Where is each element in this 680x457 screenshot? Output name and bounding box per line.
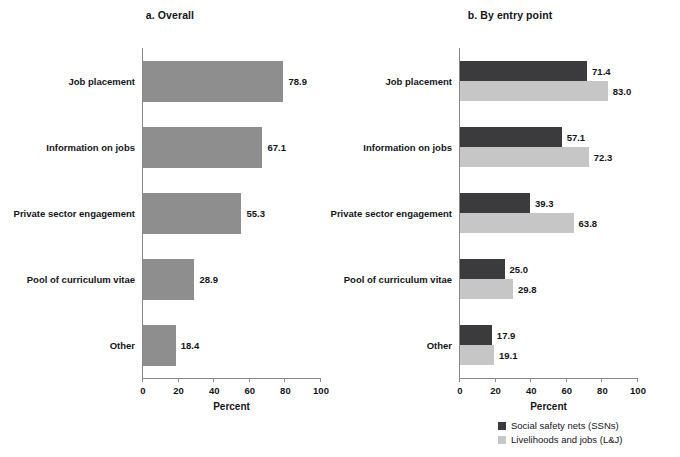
x-axis-tick-label: 80 <box>597 385 608 396</box>
x-axis-tick-label: 20 <box>173 385 184 396</box>
x-axis-tick <box>637 378 638 382</box>
legend-swatch-lj <box>498 436 506 444</box>
bar-value-label: 29.8 <box>518 284 537 295</box>
x-axis-tick <box>284 378 285 382</box>
category-group: Pool of curriculum vitae28.9 <box>143 246 321 312</box>
bar-value-label: 39.3 <box>535 198 554 209</box>
bar-value-label: 25.0 <box>510 264 529 275</box>
x-axis-tick-label: 0 <box>457 385 462 396</box>
bar[interactable]: 55.3 <box>143 193 241 234</box>
x-axis-tick-label: 20 <box>490 385 501 396</box>
legend-label-lj: Livelihoods and jobs (L&J) <box>511 434 622 445</box>
bar[interactable]: 18.4 <box>143 325 176 366</box>
category-group: Information on jobs67.1 <box>143 114 321 180</box>
legend-item: Livelihoods and jobs (L&J) <box>498 434 622 445</box>
bar[interactable]: 28.9 <box>143 259 194 300</box>
bar-value-label: 63.8 <box>579 218 598 229</box>
bar-value-label: 18.4 <box>181 340 200 351</box>
category-group: Other18.4 <box>143 312 321 378</box>
panel-a-title: a. Overall <box>0 9 340 21</box>
bar-value-label: 17.9 <box>497 330 516 341</box>
bar[interactable]: 72.3 <box>460 147 589 167</box>
x-axis-tick <box>495 378 496 382</box>
x-axis-tick-label: 100 <box>313 385 329 396</box>
bar-value-label: 19.1 <box>499 350 518 361</box>
category-label: Private sector engagement <box>331 208 452 219</box>
x-axis-tick-label: 0 <box>140 385 145 396</box>
bar-value-label: 72.3 <box>594 152 613 163</box>
bar-value-label: 28.9 <box>199 274 218 285</box>
x-axis-tick <box>249 378 250 382</box>
plot-area-overall: Percent 020406080100Job placement78.9Inf… <box>143 48 321 378</box>
plot-area-by-entry-point: Percent 020406080100Job placement71.483.… <box>460 48 638 378</box>
x-axis-tick <box>213 378 214 382</box>
bar-value-label: 83.0 <box>613 86 632 97</box>
bar[interactable]: 19.1 <box>460 345 494 365</box>
category-label: Private sector engagement <box>14 208 135 219</box>
chart-panel-overall: a. Overall Percent 020406080100Job place… <box>0 0 340 410</box>
bar[interactable]: 78.9 <box>143 61 283 102</box>
legend-label-ssn: Social safety nets (SSNs) <box>511 420 619 431</box>
x-axis-tick <box>566 378 567 382</box>
x-axis-line <box>459 378 638 379</box>
bar-value-label: 55.3 <box>246 208 265 219</box>
x-axis-tick-label: 100 <box>630 385 646 396</box>
category-group: Pool of curriculum vitae25.029.8 <box>460 246 638 312</box>
bar[interactable]: 71.4 <box>460 61 587 81</box>
bar[interactable]: 29.8 <box>460 279 513 299</box>
bar[interactable]: 83.0 <box>460 81 608 101</box>
x-axis-tick <box>601 378 602 382</box>
x-axis-tick <box>459 378 460 382</box>
category-group: Private sector engagement55.3 <box>143 180 321 246</box>
x-axis-tick <box>320 378 321 382</box>
category-group: Information on jobs57.172.3 <box>460 114 638 180</box>
chart-legend: Social safety nets (SSNs) Livelihoods an… <box>498 420 622 448</box>
x-axis-tick <box>178 378 179 382</box>
bar-value-label: 71.4 <box>592 66 611 77</box>
x-axis-tick-label: 40 <box>526 385 537 396</box>
figure: a. Overall Percent 020406080100Job place… <box>0 0 680 457</box>
category-label: Information on jobs <box>363 142 452 153</box>
category-label: Other <box>110 340 135 351</box>
category-group: Job placement78.9 <box>143 48 321 114</box>
category-label: Pool of curriculum vitae <box>27 274 135 285</box>
x-axis-tick-label: 60 <box>562 385 573 396</box>
bar[interactable]: 39.3 <box>460 193 530 213</box>
category-label: Pool of curriculum vitae <box>344 274 452 285</box>
category-label: Other <box>427 340 452 351</box>
bar-value-label: 57.1 <box>567 132 586 143</box>
category-group: Other17.919.1 <box>460 312 638 378</box>
x-axis-tick-label: 40 <box>209 385 220 396</box>
x-axis-tick <box>530 378 531 382</box>
category-group: Private sector engagement39.363.8 <box>460 180 638 246</box>
category-group: Job placement71.483.0 <box>460 48 638 114</box>
bar[interactable]: 63.8 <box>460 213 574 233</box>
category-label: Job placement <box>68 76 135 87</box>
bar-value-label: 78.9 <box>288 76 307 87</box>
bar[interactable]: 57.1 <box>460 127 562 147</box>
x-axis-tick <box>142 378 143 382</box>
x-axis-title: Percent <box>142 401 321 412</box>
x-axis-tick-label: 60 <box>245 385 256 396</box>
bar[interactable]: 17.9 <box>460 325 492 345</box>
x-axis-line <box>142 378 321 379</box>
legend-swatch-ssn <box>498 422 506 430</box>
category-label: Job placement <box>385 76 452 87</box>
bar[interactable]: 25.0 <box>460 259 505 279</box>
panel-b-title: b. By entry point <box>340 9 680 21</box>
x-axis-title: Percent <box>459 401 638 412</box>
bar[interactable]: 67.1 <box>143 127 262 168</box>
legend-item: Social safety nets (SSNs) <box>498 420 622 431</box>
category-label: Information on jobs <box>46 142 135 153</box>
bar-value-label: 67.1 <box>267 142 286 153</box>
x-axis-tick-label: 80 <box>280 385 291 396</box>
